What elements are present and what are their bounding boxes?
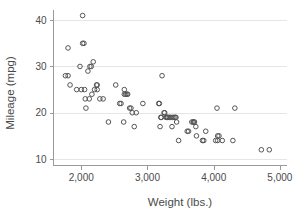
data-point	[170, 124, 175, 129]
data-point	[267, 147, 272, 152]
tick-marks-group	[50, 21, 281, 170]
data-point	[84, 106, 89, 111]
gridlines-group	[54, 21, 287, 160]
data-point	[80, 13, 85, 18]
data-point	[231, 138, 236, 143]
y-tick-label-10: 10	[35, 154, 47, 165]
data-point	[174, 120, 179, 125]
data-point	[86, 69, 91, 74]
data-point	[90, 92, 95, 97]
data-point	[68, 83, 73, 88]
data-point	[141, 101, 146, 106]
y-tick-label-30: 30	[35, 61, 47, 72]
data-point	[66, 46, 71, 51]
data-point	[106, 120, 111, 125]
x-axis-title: Weight (lbs.)	[148, 196, 213, 208]
data-point	[215, 106, 220, 111]
x-tick-label-5000: 5,000	[267, 172, 292, 183]
data-point	[233, 106, 238, 111]
data-point	[122, 87, 127, 92]
data-point	[74, 87, 79, 92]
data-points-group	[63, 13, 271, 152]
x-axis-tick-labels: 2,0003,0004,0005,000	[69, 172, 293, 183]
data-point	[113, 83, 118, 88]
data-point	[220, 138, 225, 143]
data-point	[259, 147, 264, 152]
data-point	[194, 124, 199, 129]
data-point	[82, 87, 87, 92]
x-tick-label-3000: 3,000	[135, 172, 160, 183]
y-tick-label-20: 20	[35, 107, 47, 118]
data-point	[160, 73, 165, 78]
axes-group	[54, 10, 287, 166]
scatter-chart-figure: 2,0003,0004,0005,000 10203040 Weight (lb…	[0, 0, 295, 212]
y-tick-label-40: 40	[35, 15, 47, 26]
scatter-plot-canvas: 2,0003,0004,0005,000 10203040 Weight (lb…	[0, 0, 295, 212]
data-point	[176, 138, 181, 143]
x-tick-label-2000: 2,000	[69, 172, 94, 183]
data-point	[194, 134, 199, 139]
data-point	[132, 124, 137, 129]
data-point	[101, 97, 106, 102]
data-point	[158, 124, 163, 129]
x-tick-label-4000: 4,000	[201, 172, 226, 183]
y-axis-tick-labels: 10203040	[35, 15, 47, 165]
data-point	[203, 129, 208, 134]
data-point	[121, 120, 126, 125]
y-axis-title: Mileage (mpg)	[4, 56, 16, 130]
data-point	[91, 60, 96, 65]
